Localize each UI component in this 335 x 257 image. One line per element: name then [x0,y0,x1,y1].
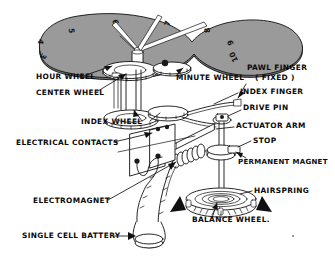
dial-number-4: 4 [35,38,45,45]
diagram-canvas: 3 4 5 6 7 8 9 10 [0,0,335,257]
leader-drive-pin [228,110,241,116]
label-hour-wheel: HOUR WHEEL [36,72,95,81]
label-permanent-magnet: PERMANENT MAGNET [238,158,328,166]
label-electrical-contacts: ELECTRICAL CONTACTS [16,138,119,147]
balance-wheel-arrow-right [256,196,272,212]
label-index-wheel: INDEX WHEEL [81,117,142,126]
label-electromagnet: ELECTROMAGNET [33,196,110,205]
leader-stop [238,141,251,147]
battery-top-rim [135,234,163,244]
index-finger-arm [182,117,216,124]
wire-coil-lead [166,166,176,196]
dial-number-5: 5 [67,28,76,34]
electrical-contacts [118,124,195,176]
label-balance-wheel: BALANCE WHEEL. [192,215,270,224]
label-center-wheel: CENTER WHEEL [36,88,104,97]
actuator-arm-bar [176,124,214,149]
contact-terminal-top-b [165,125,169,129]
dial-number-7: 7 [163,20,173,27]
label-stop: STOP [253,136,277,145]
scan-artifact-dot [292,235,294,237]
label-actuator-arm: ACTUATOR ARM [236,121,306,130]
stop-and-magnet [207,145,240,160]
pawl-finger-arm [188,102,236,112]
index-pinion-top [148,106,188,118]
pawl-finger-tip [234,99,241,106]
technical-diagram: 3 4 5 6 7 8 9 10 [0,0,335,257]
balance-wheel-arrow-left [170,196,186,212]
label-drive-pin: DRIVE PIN [243,103,288,112]
tube-top [132,50,143,54]
label-index-finger: INDEX FINGER [240,87,303,96]
pawl-and-index-fingers [182,99,241,127]
dial-number-8: 8 [203,27,213,33]
drive-pin [220,115,224,119]
label-single-cell-battery: SINGLE CELL BATTERY [22,231,121,240]
label-minute-wheel: MINUTE WHEEL [176,73,244,82]
label-pawl-finger-fixed: ( FIXED ) [255,73,295,82]
hour-wheel [103,62,157,82]
single-cell-battery [133,222,165,248]
contact-plate-right [150,124,175,168]
label-pawl-finger: PAWL FINGER [247,63,307,72]
minute-wheel-pin [162,60,168,66]
label-hairspring: HAIRSPRING [254,186,309,195]
contact-terminal-top-a [156,127,160,131]
